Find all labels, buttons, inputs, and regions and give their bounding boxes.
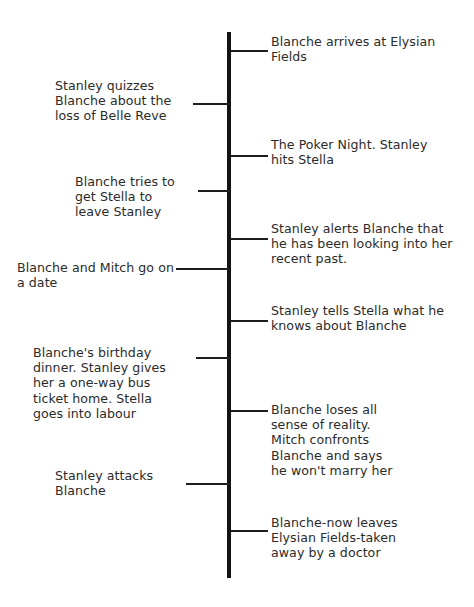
event-text-line: Stanley tells Stella what he — [271, 303, 471, 318]
event-text-line: away by a doctor — [271, 545, 431, 560]
event-text-line: he has been looking into her — [271, 236, 471, 251]
event-text-line: sense of reality. — [271, 417, 406, 432]
event-text-line: recent past. — [271, 251, 471, 266]
timeline-tick-left-2 — [198, 190, 231, 192]
timeline-event-event-l4: Blanche's birthdaydinner. Stanley givesh… — [33, 345, 168, 421]
timeline-event-event-l1: Stanley quizzesBlanche about theloss of … — [55, 78, 175, 124]
event-text-line: get Stella to — [75, 189, 180, 204]
event-text-line: hits Stella — [271, 152, 466, 167]
event-text-line: Mitch confronts — [271, 432, 406, 447]
timeline-event-event-r6: Blanche-now leavesElysian Fields-takenaw… — [271, 515, 431, 561]
event-text-line: Blanche tries to — [75, 174, 180, 189]
event-text-line: knows about Blanche — [271, 318, 471, 333]
timeline-event-event-r1: Blanche arrives at ElysianFields — [271, 34, 466, 64]
timeline-tick-left-5 — [186, 483, 231, 485]
timeline-axis — [227, 32, 231, 578]
timeline-tick-right-1 — [231, 50, 268, 52]
event-text-line: Blanche's birthday — [33, 345, 168, 360]
event-text-line: leave Stanley — [75, 204, 180, 219]
event-text-line: loss of Belle Reve — [55, 108, 175, 123]
event-text-line: Blanche about the — [55, 93, 175, 108]
timeline-tick-right-3 — [231, 238, 268, 240]
timeline-event-event-l3: Blanche and Mitch go ona date — [17, 260, 177, 290]
event-text-line: a date — [17, 275, 177, 290]
timeline-event-event-l5: Stanley attacksBlanche — [55, 468, 170, 498]
timeline-tick-right-6 — [231, 530, 268, 532]
timeline-event-event-r4: Stanley tells Stella what heknows about … — [271, 303, 471, 333]
timeline-event-event-l2: Blanche tries toget Stella toleave Stanl… — [75, 174, 180, 220]
event-text-line: dinner. Stanley gives — [33, 360, 168, 375]
event-text-line: The Poker Night. Stanley — [271, 137, 466, 152]
timeline-tick-left-4 — [196, 357, 231, 359]
event-text-line: he won't marry her — [271, 463, 406, 478]
event-text-line: Stanley alerts Blanche that — [271, 221, 471, 236]
event-text-line: Stanley attacks — [55, 468, 170, 483]
event-text-line: Blanche arrives at Elysian — [271, 34, 466, 49]
event-text-line: Fields — [271, 49, 466, 64]
event-text-line: ticket home. Stella — [33, 391, 168, 406]
timeline-diagram: Blanche arrives at ElysianFieldsThe Poke… — [0, 0, 474, 607]
timeline-tick-right-2 — [231, 155, 268, 157]
timeline-tick-left-3 — [176, 268, 231, 270]
timeline-event-event-r5: Blanche loses allsense of reality.Mitch … — [271, 402, 406, 478]
event-text-line: Blanche — [55, 483, 170, 498]
timeline-tick-right-4 — [231, 320, 268, 322]
event-text-line: goes into labour — [33, 406, 168, 421]
timeline-tick-left-1 — [193, 103, 231, 105]
event-text-line: Blanche and Mitch go on — [17, 260, 177, 275]
event-text-line: Blanche loses all — [271, 402, 406, 417]
event-text-line: Elysian Fields-taken — [271, 530, 431, 545]
event-text-line: Blanche and says — [271, 448, 406, 463]
timeline-event-event-r2: The Poker Night. Stanleyhits Stella — [271, 137, 466, 167]
event-text-line: Blanche-now leaves — [271, 515, 431, 530]
timeline-event-event-r3: Stanley alerts Blanche thathe has been l… — [271, 221, 471, 267]
event-text-line: her a one-way bus — [33, 375, 168, 390]
event-text-line: Stanley quizzes — [55, 78, 175, 93]
timeline-tick-right-5 — [231, 410, 268, 412]
